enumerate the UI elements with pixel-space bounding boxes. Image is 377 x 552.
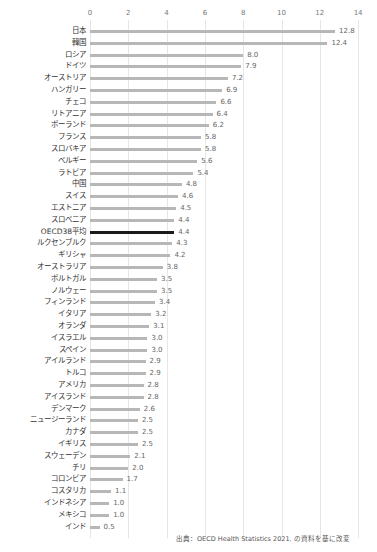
bar bbox=[90, 160, 197, 163]
bar-row: イスラエル3.0 bbox=[0, 332, 377, 344]
x-tick-label: 12 bbox=[315, 9, 324, 17]
x-tick-label: 8 bbox=[241, 9, 245, 17]
bar bbox=[90, 514, 109, 517]
bar-row: 日本12.8 bbox=[0, 25, 377, 37]
bar bbox=[90, 278, 157, 281]
category-label: ポルトガル bbox=[51, 273, 86, 285]
bar bbox=[90, 54, 243, 57]
bar bbox=[90, 195, 178, 198]
bar bbox=[90, 183, 182, 186]
category-label: フィンランド bbox=[44, 296, 86, 308]
category-label: イギリス bbox=[58, 438, 86, 450]
bar-row: カナダ2.5 bbox=[0, 426, 377, 438]
category-label: 日本 bbox=[72, 25, 86, 37]
category-label: ドイツ bbox=[65, 60, 86, 72]
value-label: 3.1 bbox=[153, 320, 164, 332]
category-label: インド bbox=[65, 521, 86, 533]
bar-row: OECD38平均4.4 bbox=[0, 226, 377, 238]
category-label: トルコ bbox=[65, 367, 86, 379]
value-label: 6.4 bbox=[217, 108, 228, 120]
bar-row: 韓国12.4 bbox=[0, 37, 377, 49]
bar-row: メキシコ1.0 bbox=[0, 509, 377, 521]
bar-row: ノルウェー3.5 bbox=[0, 285, 377, 297]
category-label: イスラエル bbox=[51, 332, 86, 344]
category-label: スロバキア bbox=[51, 143, 86, 155]
category-label: オランダ bbox=[58, 320, 86, 332]
category-label: ノルウェー bbox=[51, 285, 86, 297]
x-tick-label: 14 bbox=[354, 9, 363, 17]
bar bbox=[90, 242, 172, 245]
x-tick-label: 10 bbox=[277, 9, 286, 17]
bar-row: ベルギー5.6 bbox=[0, 155, 377, 167]
bar bbox=[90, 349, 147, 352]
bar-row: チェコ6.6 bbox=[0, 96, 377, 108]
value-label: 4.2 bbox=[174, 249, 185, 261]
bar bbox=[90, 526, 100, 529]
value-label: 2.5 bbox=[142, 414, 153, 426]
bar bbox=[90, 101, 216, 104]
category-label: フランス bbox=[58, 131, 86, 143]
bar bbox=[90, 301, 155, 304]
category-label: スイス bbox=[65, 190, 86, 202]
bar bbox=[90, 254, 170, 257]
bar bbox=[90, 419, 138, 422]
bar bbox=[90, 443, 138, 446]
bar-row: オランダ3.1 bbox=[0, 320, 377, 332]
value-label: 3.5 bbox=[161, 273, 172, 285]
bar-row: アイルランド2.9 bbox=[0, 355, 377, 367]
category-label: アイルランド bbox=[44, 355, 86, 367]
bar bbox=[90, 65, 241, 68]
value-label: 12.8 bbox=[339, 25, 355, 37]
bar-row: オーストラリア3.8 bbox=[0, 261, 377, 273]
category-label: エストニア bbox=[51, 202, 86, 214]
average-bar bbox=[90, 231, 174, 234]
bar-row: チリ2.0 bbox=[0, 462, 377, 474]
category-label: アイスランド bbox=[44, 391, 86, 403]
bar bbox=[90, 478, 123, 481]
bar bbox=[90, 360, 146, 363]
bar-row: フィンランド3.4 bbox=[0, 296, 377, 308]
category-label: コスタリカ bbox=[51, 485, 86, 497]
bar-row: フランス5.8 bbox=[0, 131, 377, 143]
source-note: 出典：OECD Health Statistics 2021. の資料を基に改変 bbox=[176, 533, 350, 543]
bar-row: スロベニア4.4 bbox=[0, 214, 377, 226]
value-label: 5.8 bbox=[205, 131, 216, 143]
bar bbox=[90, 455, 130, 458]
bar bbox=[90, 502, 109, 505]
category-label: スペイン bbox=[59, 344, 86, 356]
value-label: 8.0 bbox=[247, 49, 258, 61]
bar-row: イタリア3.2 bbox=[0, 308, 377, 320]
value-label: 12.4 bbox=[331, 37, 347, 49]
bar-row: ポルトガル3.5 bbox=[0, 273, 377, 285]
x-tick-label: 6 bbox=[203, 9, 207, 17]
bar bbox=[90, 124, 209, 127]
bar-row: ドイツ7.9 bbox=[0, 60, 377, 72]
bar bbox=[90, 30, 335, 33]
value-label: 2.6 bbox=[144, 403, 155, 415]
bar-row: スイス4.6 bbox=[0, 190, 377, 202]
value-label: 0.5 bbox=[104, 521, 115, 533]
bar bbox=[90, 325, 149, 328]
value-label: 2.5 bbox=[142, 426, 153, 438]
value-label: 2.9 bbox=[150, 355, 161, 367]
bar bbox=[90, 337, 147, 340]
value-label: 2.8 bbox=[148, 379, 159, 391]
category-label: チリ bbox=[72, 462, 86, 474]
bar bbox=[90, 207, 176, 210]
category-label: ルクセンブルク bbox=[37, 237, 86, 249]
bar bbox=[90, 290, 157, 293]
bar-row: スロバキア5.8 bbox=[0, 143, 377, 155]
category-label: ニュージーランド bbox=[30, 414, 86, 426]
category-label: スロベニア bbox=[51, 214, 86, 226]
bar-row: ポーランド6.2 bbox=[0, 119, 377, 131]
category-label: 中国 bbox=[72, 178, 86, 190]
bar bbox=[90, 113, 213, 116]
bar bbox=[90, 372, 146, 375]
bar-row: イギリス2.5 bbox=[0, 438, 377, 450]
bar-row: ニュージーランド2.5 bbox=[0, 414, 377, 426]
bar bbox=[90, 408, 140, 411]
bar bbox=[90, 77, 228, 80]
bar bbox=[90, 219, 174, 222]
bar-chart: 02468101214 日本12.8韓国12.4ロシア8.0ドイツ7.9オースト… bbox=[0, 0, 377, 552]
category-label: ギリシャ bbox=[58, 249, 86, 261]
